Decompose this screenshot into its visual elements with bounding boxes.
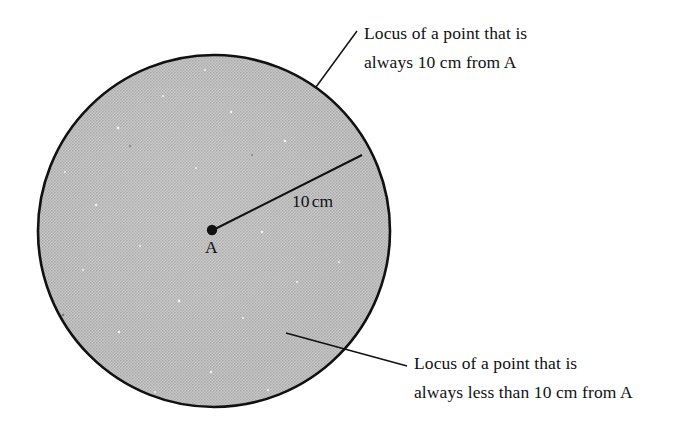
radius-label: 10cm — [292, 191, 333, 212]
callout-interior-line2: always less than 10 cm from A — [414, 378, 633, 407]
callout-interior: Locus of a point that is always less tha… — [414, 349, 633, 407]
callout-interior-line1: Locus of a point that is — [414, 349, 633, 378]
callout-leader-circumference — [316, 31, 357, 87]
callout-circumference-line2: always 10 cm from A — [364, 48, 527, 77]
radius-label-value: 10 — [292, 191, 310, 211]
locus-figure: A 10cm Locus of a point that is always 1… — [0, 0, 697, 426]
center-point-a — [207, 225, 217, 235]
radius-label-unit: cm — [312, 191, 334, 211]
callout-circumference: Locus of a point that is always 10 cm fr… — [364, 19, 527, 77]
center-point-label: A — [205, 237, 218, 258]
callout-circumference-line1: Locus of a point that is — [364, 19, 527, 48]
